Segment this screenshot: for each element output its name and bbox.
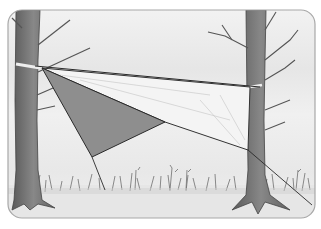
- tarp-shelter-illustration: [0, 0, 321, 229]
